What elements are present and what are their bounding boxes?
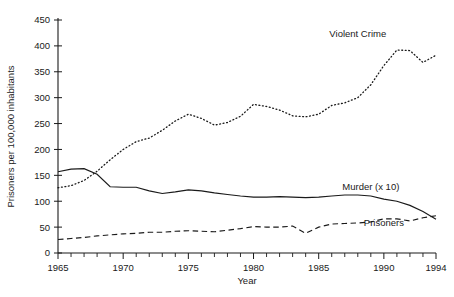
x-tick-label: 1980 bbox=[243, 262, 264, 273]
x-tick-label: 1975 bbox=[178, 262, 199, 273]
x-tick-label: 1970 bbox=[113, 262, 134, 273]
line-chart: 0501001502002503003504004501965197019751… bbox=[0, 0, 454, 297]
y-axis-title: Prisoners per 100,000 inhabitants bbox=[5, 65, 16, 207]
series-line-prisoners bbox=[58, 169, 436, 220]
y-tick-label: 400 bbox=[34, 40, 50, 51]
y-tick-label: 250 bbox=[34, 118, 50, 129]
y-tick-label: 300 bbox=[34, 92, 50, 103]
chart-container: 0501001502002503003504004501965197019751… bbox=[0, 0, 454, 297]
y-tick-label: 50 bbox=[39, 222, 50, 233]
y-tick-label: 450 bbox=[34, 14, 50, 25]
y-tick-label: 0 bbox=[45, 247, 50, 258]
x-axis-title: Year bbox=[237, 275, 256, 286]
x-tick-label: 1994 bbox=[425, 262, 446, 273]
series-label-violent-crime: Violent Crime bbox=[329, 28, 386, 39]
y-tick-label: 350 bbox=[34, 66, 50, 77]
x-tick-label: 1965 bbox=[47, 262, 68, 273]
x-tick-label: 1985 bbox=[308, 262, 329, 273]
x-tick-label: 1990 bbox=[373, 262, 394, 273]
y-tick-label: 150 bbox=[34, 170, 50, 181]
series-line-violent-crime bbox=[58, 50, 436, 188]
y-tick-label: 100 bbox=[34, 196, 50, 207]
y-tick-label: 200 bbox=[34, 144, 50, 155]
series-label-murder-x-10: Murder (x 10) bbox=[342, 181, 399, 192]
